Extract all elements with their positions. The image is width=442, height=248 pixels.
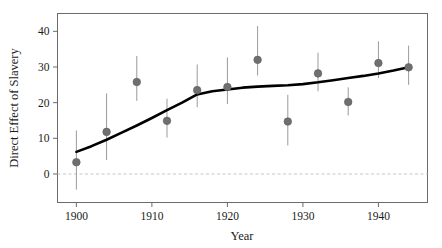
data-point-marker xyxy=(133,78,141,86)
data-point-marker xyxy=(375,59,383,67)
y-tick-label: 0 xyxy=(44,168,50,180)
x-tick-label: 1900 xyxy=(65,210,88,222)
data-point-marker xyxy=(163,117,171,125)
y-tick-label: 30 xyxy=(38,61,50,73)
x-tick-label: 1920 xyxy=(216,210,239,222)
data-point-marker xyxy=(314,70,322,78)
y-tick-label: 20 xyxy=(38,97,50,109)
data-point-marker xyxy=(405,64,413,72)
y-tick-label: 10 xyxy=(38,132,50,144)
data-point-marker xyxy=(224,83,232,91)
y-tick-label: 40 xyxy=(38,25,50,37)
data-point-marker xyxy=(103,128,111,136)
x-tick-label: 1930 xyxy=(291,210,314,222)
y-axis-title: Direct Effect of Slavery xyxy=(7,48,21,168)
data-point-marker xyxy=(254,56,262,64)
data-point-marker xyxy=(193,86,201,94)
x-tick-label: 1940 xyxy=(367,210,390,222)
scatter-plot-with-error-bars: 010203040 19001910192019301940 Year Dire… xyxy=(0,0,442,248)
x-axis-title: Year xyxy=(230,229,254,243)
chart-figure: 010203040 19001910192019301940 Year Dire… xyxy=(0,0,442,248)
data-point-marker xyxy=(284,118,292,126)
x-tick-label: 1910 xyxy=(140,210,163,222)
data-point-marker xyxy=(73,158,81,166)
data-point-marker xyxy=(344,98,352,106)
